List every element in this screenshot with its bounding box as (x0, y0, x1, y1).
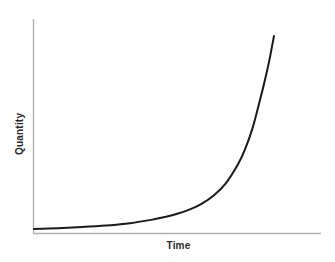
exponential-growth-chart: Quantity Time (0, 0, 335, 262)
exponential-curve (34, 36, 274, 229)
chart-plot-area (0, 0, 335, 262)
y-axis-label: Quantity (14, 55, 28, 155)
x-axis-label: Time (0, 240, 335, 251)
